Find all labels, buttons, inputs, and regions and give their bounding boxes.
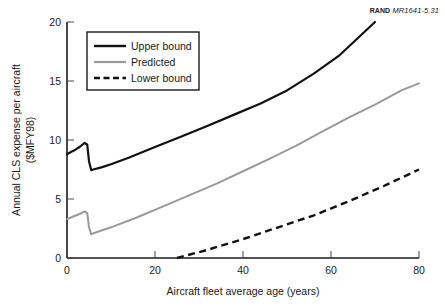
y-axis-title-line1: Annual CLS expense per aircraft xyxy=(10,64,22,216)
x-tick-label: 80 xyxy=(413,264,425,276)
y-axis-title-line2: ($MFY98) xyxy=(24,117,36,164)
y-tick-label: 20 xyxy=(49,16,61,28)
y-axis-ticks xyxy=(67,22,74,258)
line-chart: 05101520 020406080 Annual CLS expense pe… xyxy=(0,0,445,306)
rand-logo-text: RAND xyxy=(370,7,391,14)
chart-figure: RAND MR1641-5.31 05101520 020406080 Annu… xyxy=(0,0,445,306)
legend-label-predicted: Predicted xyxy=(131,56,176,68)
document-id-label: MR1641-5.31 xyxy=(392,6,439,15)
y-tick-label: 15 xyxy=(49,75,61,87)
x-axis-title: Aircraft fleet average age (years) xyxy=(167,285,320,297)
x-tick-label: 40 xyxy=(237,264,249,276)
series-line-lower-bound xyxy=(177,170,419,259)
y-tick-label: 5 xyxy=(55,193,61,205)
x-tick-label: 20 xyxy=(149,264,161,276)
series-line-predicted xyxy=(67,83,419,234)
source-note: RAND MR1641-5.31 xyxy=(370,6,439,15)
x-axis-ticks xyxy=(67,251,419,258)
y-tick-label: 0 xyxy=(55,252,61,264)
chart-legend: Upper bound Predicted Lower bound xyxy=(87,32,199,90)
x-tick-label: 60 xyxy=(325,264,337,276)
x-axis-tick-labels: 020406080 xyxy=(64,264,425,276)
x-tick-label: 0 xyxy=(64,264,70,276)
y-tick-label: 10 xyxy=(49,134,61,146)
legend-label-lower-bound: Lower bound xyxy=(131,72,192,84)
legend-label-upper-bound: Upper bound xyxy=(131,40,192,52)
y-axis-tick-labels: 05101520 xyxy=(49,16,61,264)
